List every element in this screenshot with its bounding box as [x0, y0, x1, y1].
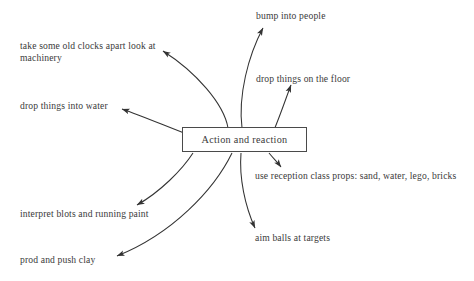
arrow-to-water	[122, 109, 184, 133]
node-label-blots: interpret blots and running paint	[20, 208, 210, 220]
node-label-clocks: take some old clocks apart look at machi…	[20, 40, 200, 63]
node-label-bump: bump into people	[256, 10, 406, 22]
arrow-to-clay	[117, 153, 232, 256]
arrow-to-blots	[137, 153, 193, 205]
central-node-label: Action and reaction	[201, 134, 287, 145]
node-label-water: drop things into water	[20, 100, 160, 112]
node-label-props: use reception class props: sand, water, …	[255, 170, 460, 182]
diagram-canvas: Action and reaction take some old clocks…	[0, 0, 474, 281]
arrow-to-aim	[241, 153, 255, 228]
node-label-aim: aim balls at targets	[255, 232, 405, 244]
arrow-to-floor	[274, 85, 291, 130]
node-label-clay: prod and push clay	[20, 254, 150, 266]
arrow-to-props	[269, 153, 281, 167]
node-label-floor: drop things on the floor	[256, 73, 416, 85]
central-node: Action and reaction	[182, 127, 307, 152]
